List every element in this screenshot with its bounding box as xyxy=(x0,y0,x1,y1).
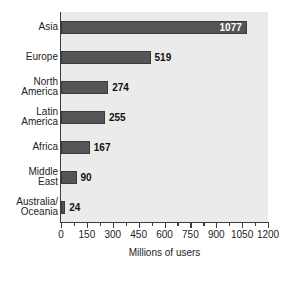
x-tick-label: 600 xyxy=(156,229,173,240)
bar-track: 255 xyxy=(61,102,268,132)
x-tick-minor xyxy=(126,223,127,226)
bar-value-label: 519 xyxy=(155,52,172,63)
bar-value-label: 24 xyxy=(69,202,80,213)
x-tick-label: 150 xyxy=(79,229,96,240)
x-tick-label: 0 xyxy=(58,229,64,240)
x-tick-major xyxy=(113,223,114,228)
bar-value-label: 274 xyxy=(112,82,129,93)
bar-rows: Asia1077Europe519North America274Latin A… xyxy=(0,12,282,222)
x-tick-major xyxy=(139,223,140,228)
bar-track: 90 xyxy=(61,162,268,192)
x-tick-label: 1050 xyxy=(231,229,253,240)
bar-track: 167 xyxy=(61,132,268,162)
bar xyxy=(61,51,151,64)
bar-row: Europe519 xyxy=(0,42,282,72)
bar xyxy=(61,141,90,154)
category-label: Europe xyxy=(0,52,58,63)
bar-value-label: 1077 xyxy=(220,22,242,33)
x-tick-minor xyxy=(203,223,204,226)
x-tick-major xyxy=(268,223,269,228)
x-tick-major xyxy=(242,223,243,228)
x-tick-label: 900 xyxy=(208,229,225,240)
x-tick-major xyxy=(61,223,62,228)
bar-row: Asia1077 xyxy=(0,12,282,42)
x-tick-major xyxy=(190,223,191,228)
x-tick-label: 300 xyxy=(104,229,121,240)
bar-value-label: 90 xyxy=(81,172,92,183)
x-tick-label: 450 xyxy=(130,229,147,240)
x-tick-minor xyxy=(255,223,256,226)
bar-row: Australia/ Oceania24 xyxy=(0,192,282,222)
bar xyxy=(61,81,108,94)
x-axis-tick-labels: 015030045060075090010501200 xyxy=(0,229,282,243)
bar-track: 24 xyxy=(61,192,268,222)
category-label: Middle East xyxy=(0,167,58,188)
x-tick-minor xyxy=(152,223,153,226)
bar xyxy=(61,171,77,184)
x-tick-major xyxy=(165,223,166,228)
category-label: Asia xyxy=(0,22,58,33)
x-tick-minor xyxy=(74,223,75,226)
x-tick-label: 750 xyxy=(182,229,199,240)
bar xyxy=(61,201,65,214)
bar-value-label: 167 xyxy=(94,142,111,153)
category-label: North America xyxy=(0,77,58,98)
x-tick-minor xyxy=(177,223,178,226)
x-tick-major xyxy=(216,223,217,228)
category-label: Latin America xyxy=(0,107,58,128)
bar xyxy=(61,111,105,124)
bar-value-label: 255 xyxy=(109,112,126,123)
bar-chart: Asia1077Europe519North America274Latin A… xyxy=(0,0,282,282)
bar-track: 1077 xyxy=(61,12,268,42)
bar-track: 274 xyxy=(61,72,268,102)
bar-track: 519 xyxy=(61,42,268,72)
bar-row: Latin America255 xyxy=(0,102,282,132)
bar-row: Middle East90 xyxy=(0,162,282,192)
x-axis-title: Millions of users xyxy=(61,247,268,258)
x-tick-label: 1200 xyxy=(257,229,279,240)
bar-row: North America274 xyxy=(0,72,282,102)
bar-row: Africa167 xyxy=(0,132,282,162)
category-label: Africa xyxy=(0,142,58,153)
x-tick-minor xyxy=(229,223,230,226)
x-tick-major xyxy=(87,223,88,228)
category-label: Australia/ Oceania xyxy=(0,197,58,218)
x-tick-minor xyxy=(100,223,101,226)
